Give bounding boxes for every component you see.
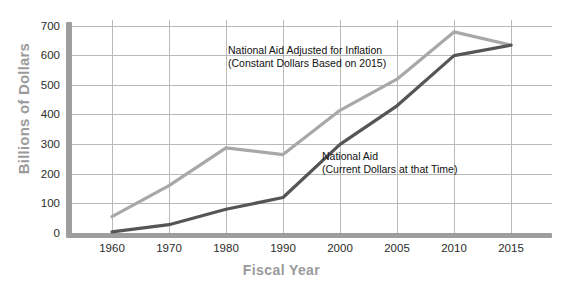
annotation-current-series: National Aid (Current Dollars at that Ti… (322, 150, 457, 176)
annotation-current-line1: National Aid (322, 150, 457, 163)
annotation-inflation-line1: National Aid Adjusted for Inflation (228, 44, 386, 57)
x-axis-title: Fiscal Year (0, 262, 563, 278)
annotation-inflation-series: National Aid Adjusted for Inflation (Con… (228, 44, 386, 70)
chart-figure: Billions of Dollars 700 600 500 400 300 … (0, 0, 563, 288)
annotation-inflation-line2: (Constant Dollars Based on 2015) (228, 57, 386, 70)
annotation-current-line2: (Current Dollars at that Time) (322, 163, 457, 176)
line-series-current (112, 45, 511, 232)
